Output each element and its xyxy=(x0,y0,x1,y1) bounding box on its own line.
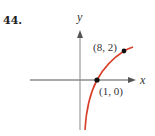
point-8-2 xyxy=(122,49,127,54)
x-axis-arrow-icon xyxy=(128,77,136,83)
graph: y x (8, 2) (1, 0) xyxy=(0,0,155,136)
point-1-0-label: (1, 0) xyxy=(99,85,123,98)
y-axis-label: y xyxy=(76,10,83,24)
y-axis-arrow-icon xyxy=(77,30,83,38)
point-1-0 xyxy=(94,77,99,82)
point-8-2-label: (8, 2) xyxy=(93,41,117,54)
x-axis-label: x xyxy=(139,73,146,87)
